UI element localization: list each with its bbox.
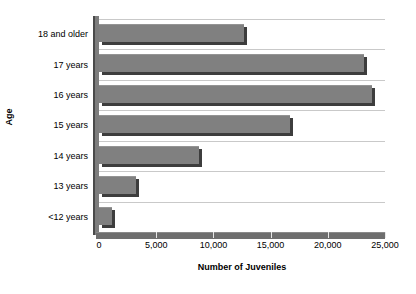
x-axis-tick-label: 15,000	[257, 240, 285, 250]
bar-shadow-edge	[199, 149, 202, 167]
y-axis-tick-label: 18 and older	[18, 19, 94, 49]
x-axis-tick-labels: 05,00010,00015,00020,00025,000	[0, 240, 416, 254]
bar-row	[99, 202, 385, 232]
y-axis-tick-label: 14 years	[18, 141, 94, 171]
bar-shadow-edge	[372, 88, 375, 106]
y-axis-title: Age	[0, 0, 18, 234]
bar[interactable]	[99, 176, 136, 194]
x-axis-tick	[271, 232, 272, 238]
bar[interactable]	[99, 207, 112, 225]
x-axis-line	[96, 232, 385, 239]
y-axis-tick-label: 13 years	[18, 171, 94, 201]
y-axis-tick-labels: 18 and older17 years16 years15 years14 y…	[18, 19, 94, 232]
y-axis-tick-label: 15 years	[18, 110, 94, 140]
y-axis-tick-label: 16 years	[18, 80, 94, 110]
bar-shadow-edge	[136, 179, 139, 197]
bar-shadow-edge	[112, 210, 115, 228]
x-axis-tick-label: 0	[96, 240, 101, 250]
x-axis-tick-label: 25,000	[371, 240, 399, 250]
x-axis-tick-label: 10,000	[200, 240, 228, 250]
bar-shadow-edge	[364, 57, 367, 75]
y-axis-spine-edge	[93, 16, 95, 235]
bar-row	[99, 110, 385, 140]
bar-row	[99, 141, 385, 171]
bar-row	[99, 80, 385, 110]
y-axis-tick-label: <12 years	[18, 202, 94, 232]
bar[interactable]	[99, 54, 364, 72]
x-axis-title: Number of Juveniles	[99, 262, 385, 272]
bar[interactable]	[99, 146, 199, 164]
bar-shadow-edge	[244, 27, 247, 45]
bar-series	[99, 19, 385, 232]
y-axis-tick-label: 17 years	[18, 49, 94, 79]
x-axis-tick-label: 20,000	[314, 240, 342, 250]
bar-row	[99, 49, 385, 79]
x-axis-tick	[328, 232, 329, 238]
bar-shadow-edge	[290, 118, 293, 136]
y-axis-title-label: Age	[4, 108, 14, 125]
bar-row	[99, 19, 385, 49]
x-axis-tick	[385, 232, 386, 238]
x-axis-tick-label: 5,000	[145, 240, 168, 250]
bar[interactable]	[99, 85, 372, 103]
bar[interactable]	[99, 24, 244, 42]
bar-chart: Age 18 and older17 years16 years15 years…	[0, 0, 416, 294]
x-axis-tick	[156, 232, 157, 238]
bar[interactable]	[99, 115, 290, 133]
x-axis-tick	[213, 232, 214, 238]
bar-row	[99, 171, 385, 201]
plot-area	[99, 19, 385, 232]
